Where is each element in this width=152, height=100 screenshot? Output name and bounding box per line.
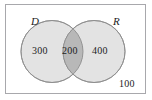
venn-diagram-figure: D R 300 200 400 100 — [0, 0, 152, 100]
set-label-r: R — [113, 16, 120, 27]
count-outside: 100 — [119, 79, 135, 89]
count-left-only: 300 — [32, 46, 48, 56]
count-right-only: 400 — [92, 46, 108, 56]
count-intersection: 200 — [62, 46, 78, 56]
set-label-d: D — [31, 16, 39, 27]
